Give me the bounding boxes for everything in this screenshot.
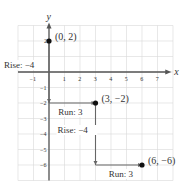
data-point <box>46 38 51 43</box>
x-axis-label: x <box>173 66 179 77</box>
x-tick-label: 2 <box>78 76 81 82</box>
point-label: (0, 2) <box>55 31 77 43</box>
x-tick-label: −1 <box>30 76 36 82</box>
y-tick-label: −6 <box>40 162 46 168</box>
x-tick-label: 5 <box>125 76 128 82</box>
arrowhead-icon <box>47 99 51 103</box>
point-label: (3, −2) <box>102 93 129 105</box>
x-axis-arrow-icon <box>165 70 171 75</box>
x-tick-label: 3 <box>94 76 97 82</box>
rise-run-annotation: Rise: −4 <box>4 60 35 70</box>
coordinate-plane-chart: xy−112345672−1−2−3−4−5−6Rise: −4Run: 3Ri… <box>0 0 191 195</box>
y-tick-label: −5 <box>40 147 46 153</box>
x-tick-label: 6 <box>140 76 143 82</box>
arrowhead-icon <box>94 161 98 165</box>
x-tick-label: 1 <box>63 76 66 82</box>
y-tick-label: −1 <box>40 85 46 91</box>
y-tick-label: −3 <box>40 116 46 122</box>
y-tick-label: −4 <box>40 131 46 137</box>
rise-run-annotation: Run: 3 <box>58 107 83 117</box>
point-label: (6, −6) <box>148 155 175 167</box>
y-tick-label: −2 <box>40 100 46 106</box>
data-point <box>139 162 144 167</box>
data-point <box>93 100 98 105</box>
rise-run-annotation: Run: 3 <box>109 169 134 179</box>
rise-run-annotation: Rise: −4 <box>58 125 89 135</box>
y-axis-label: y <box>46 11 52 22</box>
x-tick-label: 4 <box>109 76 112 82</box>
x-tick-label: 7 <box>156 76 159 82</box>
